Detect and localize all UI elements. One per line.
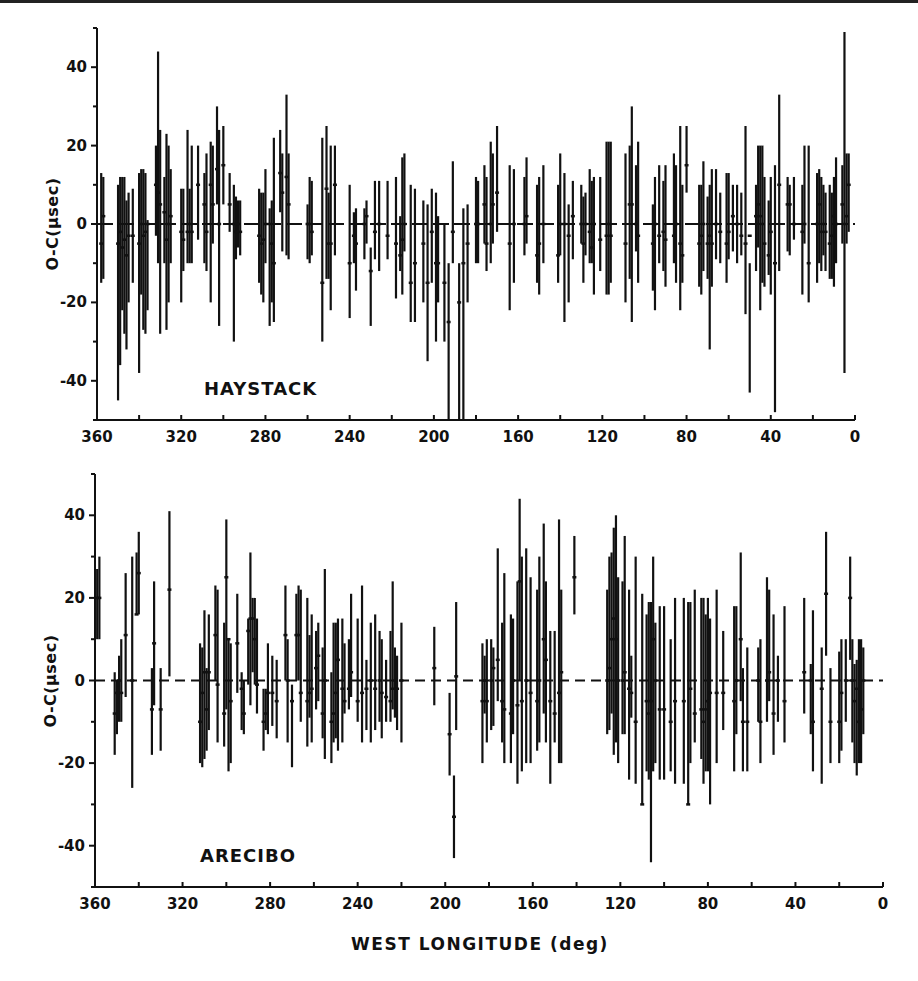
error-bar — [718, 193, 722, 264]
y-axis-title-top: O-C(μsec) — [43, 177, 62, 270]
x-tick-label: 360 — [81, 428, 112, 446]
y-tick-label: -40 — [60, 372, 87, 390]
error-bar — [373, 614, 377, 730]
panel-label-haystack: HAYSTACK — [204, 378, 317, 399]
error-bar — [529, 577, 533, 763]
x-tick-label: 160 — [517, 895, 548, 913]
error-bar — [130, 557, 134, 788]
error-bar — [356, 619, 360, 722]
y-tick-label: 20 — [66, 137, 87, 155]
error-bar — [623, 153, 627, 302]
x-tick-label: 320 — [166, 428, 197, 446]
error-bar — [562, 173, 566, 322]
error-bar — [369, 623, 373, 743]
error-bar — [447, 263, 451, 420]
error-bar — [461, 208, 465, 420]
error-bar — [430, 189, 434, 283]
haystack-panel: 40200-20-4036032028024020016012080400 — [60, 28, 860, 446]
error-bar — [673, 598, 677, 784]
error-bar — [735, 185, 739, 263]
y-tick-label: -20 — [58, 754, 85, 772]
panel-label-arecibo: ARECIBO — [200, 845, 296, 866]
error-bar — [773, 165, 777, 412]
error-bar — [772, 614, 776, 754]
error-bar — [384, 660, 388, 722]
error-bar — [442, 224, 446, 342]
error-bar — [524, 548, 528, 763]
error-bar — [131, 189, 135, 283]
x-tick-label: 120 — [587, 428, 618, 446]
x-tick-label: 240 — [334, 428, 365, 446]
arecibo-panel: 40200-20-4036032028024020016012080400 — [58, 474, 888, 913]
error-bar — [512, 169, 516, 283]
error-bar — [658, 606, 662, 779]
figure: 40200-20-4036032028024020016012080400 40… — [0, 0, 918, 981]
y-tick-label: 20 — [64, 589, 85, 607]
x-tick-label: 0 — [850, 428, 860, 446]
error-bar — [386, 181, 390, 259]
error-bar — [715, 590, 719, 763]
x-tick-label: 280 — [250, 428, 281, 446]
error-bar — [451, 161, 455, 263]
error-bar — [373, 181, 377, 259]
error-bar — [828, 668, 832, 763]
y-tick-label: -40 — [58, 837, 85, 855]
error-bar — [783, 606, 787, 742]
error-bar — [452, 775, 456, 858]
error-bar — [360, 586, 364, 743]
error-bar — [745, 647, 749, 771]
error-bar — [409, 185, 413, 322]
error-bar — [221, 126, 225, 204]
error-bar — [364, 660, 368, 730]
error-bar — [548, 631, 552, 784]
error-bar — [824, 532, 828, 656]
error-bar — [496, 548, 500, 701]
x-tick-label: 80 — [697, 895, 718, 913]
error-bar — [348, 185, 352, 318]
error-bar — [682, 598, 686, 784]
error-bar — [426, 204, 430, 361]
x-tick-label: 0 — [878, 895, 888, 913]
y-tick-label: 40 — [64, 506, 85, 524]
error-bar — [553, 631, 557, 743]
error-bar — [448, 693, 452, 776]
x-tick-label: 240 — [342, 895, 373, 913]
error-bar — [320, 138, 324, 342]
error-bar — [508, 165, 512, 310]
error-bar — [432, 627, 436, 705]
error-bar — [571, 181, 575, 259]
error-bar — [685, 126, 689, 193]
y-tick-label: -20 — [60, 293, 87, 311]
error-bar — [399, 623, 403, 743]
error-bar — [744, 126, 748, 314]
error-bar — [669, 639, 673, 771]
error-bar — [634, 557, 638, 784]
error-bar — [413, 189, 417, 322]
x-tick-label: 200 — [418, 428, 449, 446]
error-bar — [495, 126, 499, 232]
x-tick-label: 120 — [605, 895, 636, 913]
x-tick-label: 160 — [502, 428, 533, 446]
error-bar — [541, 165, 545, 263]
error-bar — [640, 594, 644, 805]
error-bar — [567, 204, 571, 302]
error-bar — [167, 511, 171, 676]
error-bar — [820, 647, 824, 783]
error-bar — [731, 185, 735, 252]
error-bar — [275, 660, 279, 738]
error-bar — [124, 573, 128, 697]
x-axis-title: WEST LONGITUDE (deg) — [351, 934, 609, 954]
error-bar — [421, 200, 425, 302]
x-tick-label: 40 — [785, 895, 806, 913]
y-tick-label: 40 — [66, 58, 87, 76]
error-bar — [270, 656, 274, 726]
error-bar — [196, 146, 200, 240]
error-bar — [662, 606, 666, 779]
x-tick-label: 80 — [676, 428, 697, 446]
error-bar — [235, 594, 239, 693]
error-bar — [777, 95, 781, 271]
y-tick-label: 0 — [75, 672, 85, 690]
x-tick-label: 320 — [167, 895, 198, 913]
error-bar — [844, 639, 848, 722]
error-bar — [693, 590, 697, 743]
